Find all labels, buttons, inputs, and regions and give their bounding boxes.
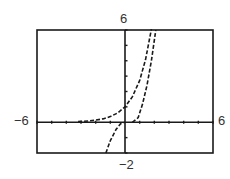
curve-2 (106, 122, 125, 153)
axes (37, 30, 213, 153)
curve-1 (78, 29, 151, 121)
curves (78, 29, 156, 153)
graph-screen (0, 0, 230, 179)
curve-3 (132, 30, 156, 122)
